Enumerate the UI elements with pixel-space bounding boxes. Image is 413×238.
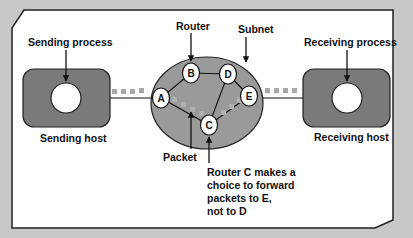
router-c: C xyxy=(201,115,218,135)
router-c-label: C xyxy=(205,120,212,131)
label-subnet: Subnet xyxy=(238,23,274,35)
router-a: A xyxy=(153,88,170,108)
note-line-3: packets to E, xyxy=(207,192,272,204)
receiving-process-circle xyxy=(332,83,362,113)
router-e-label: E xyxy=(246,91,253,102)
router-b: B xyxy=(183,63,200,83)
label-sending-host: Sending host xyxy=(40,132,107,144)
label-sending-process: Sending process xyxy=(28,36,113,48)
label-packet: Packet xyxy=(163,151,197,163)
label-router: Router xyxy=(176,20,210,32)
note-line-2: choice to forward xyxy=(207,179,295,191)
router-e: E xyxy=(241,86,258,106)
label-receiving-host: Receiving host xyxy=(314,131,389,143)
note-line-1: Router C makes a xyxy=(207,166,296,178)
note-line-4: not to D xyxy=(207,205,247,217)
router-a-label: A xyxy=(157,93,164,104)
router-d-label: D xyxy=(224,69,231,80)
network-diagram: A B C D E Sending process Sending host R… xyxy=(0,0,413,238)
label-receiving-process: Receiving process xyxy=(304,36,397,48)
sending-process-circle xyxy=(51,83,81,113)
router-d: D xyxy=(220,64,237,84)
router-b-label: B xyxy=(187,68,194,79)
